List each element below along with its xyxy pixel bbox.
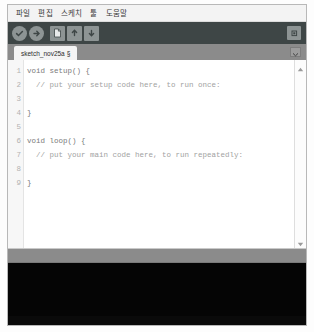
code-line: void loop() { [24, 134, 294, 148]
tab-menu-button[interactable] [290, 47, 301, 57]
tab-strip: sketch_nov25a § [8, 44, 306, 60]
open-button[interactable] [67, 26, 82, 41]
code-text-area[interactable]: void setup() { // put your setup code he… [24, 60, 294, 248]
serial-monitor-button[interactable] [287, 26, 301, 40]
console-text [8, 263, 306, 269]
code-line [24, 92, 294, 106]
code-line: } [24, 176, 294, 190]
arduino-ide-window: 파일 편집 스케치 툴 도움말 [7, 4, 307, 326]
status-bar-text [8, 249, 306, 255]
code-line [24, 162, 294, 176]
verify-button[interactable] [12, 26, 27, 41]
tab-label: sketch_nov25a [21, 50, 65, 57]
save-button[interactable] [84, 26, 99, 41]
scrollbar-track[interactable] [295, 71, 306, 237]
toolbar [8, 22, 306, 44]
upload-arrow-icon [32, 29, 41, 38]
line-number: 2 [8, 78, 23, 92]
line-number: 1 [8, 64, 23, 78]
new-button[interactable] [50, 26, 65, 41]
menu-item-tools[interactable]: 툴 [86, 5, 101, 22]
upload-button[interactable] [29, 26, 44, 41]
editor-vertical-scrollbar[interactable] [294, 60, 306, 248]
new-file-icon [53, 28, 62, 38]
status-bar [8, 249, 306, 263]
triangle-down-icon [297, 233, 304, 251]
line-number-gutter: 1 2 3 4 5 6 7 8 9 [8, 60, 24, 248]
menu-bar: 파일 편집 스케치 툴 도움말 [8, 5, 306, 22]
code-line: // put your main code here, to run repea… [24, 148, 294, 162]
line-number: 6 [8, 134, 23, 148]
line-number: 4 [8, 106, 23, 120]
line-number: 9 [8, 176, 23, 190]
console-bottom-bar [8, 316, 306, 325]
code-line: } [24, 106, 294, 120]
code-editor[interactable]: 1 2 3 4 5 6 7 8 9 void setup() { // put … [8, 60, 306, 249]
menu-item-sketch[interactable]: 스케치 [57, 5, 87, 22]
line-number: 3 [8, 92, 23, 106]
check-icon [15, 29, 24, 38]
scroll-up-button[interactable] [296, 62, 305, 71]
menu-item-help[interactable]: 도움말 [102, 5, 132, 22]
line-number: 8 [8, 162, 23, 176]
scroll-down-button[interactable] [296, 237, 305, 246]
menu-item-edit[interactable]: 편집 [34, 5, 56, 22]
magnifier-icon [290, 24, 299, 42]
line-number: 7 [8, 148, 23, 162]
line-number: 5 [8, 120, 23, 134]
open-folder-up-arrow-icon [70, 29, 79, 38]
tab-modified-marker: § [67, 50, 71, 57]
code-line: void setup() { [24, 64, 294, 78]
code-line [24, 120, 294, 134]
menu-item-file[interactable]: 파일 [12, 5, 34, 22]
tab-sketch-nov25a[interactable]: sketch_nov25a § [14, 46, 77, 60]
code-line: // put your setup code here, to run once… [24, 78, 294, 92]
save-down-arrow-icon [87, 29, 96, 38]
console-output-panel[interactable] [8, 263, 306, 325]
